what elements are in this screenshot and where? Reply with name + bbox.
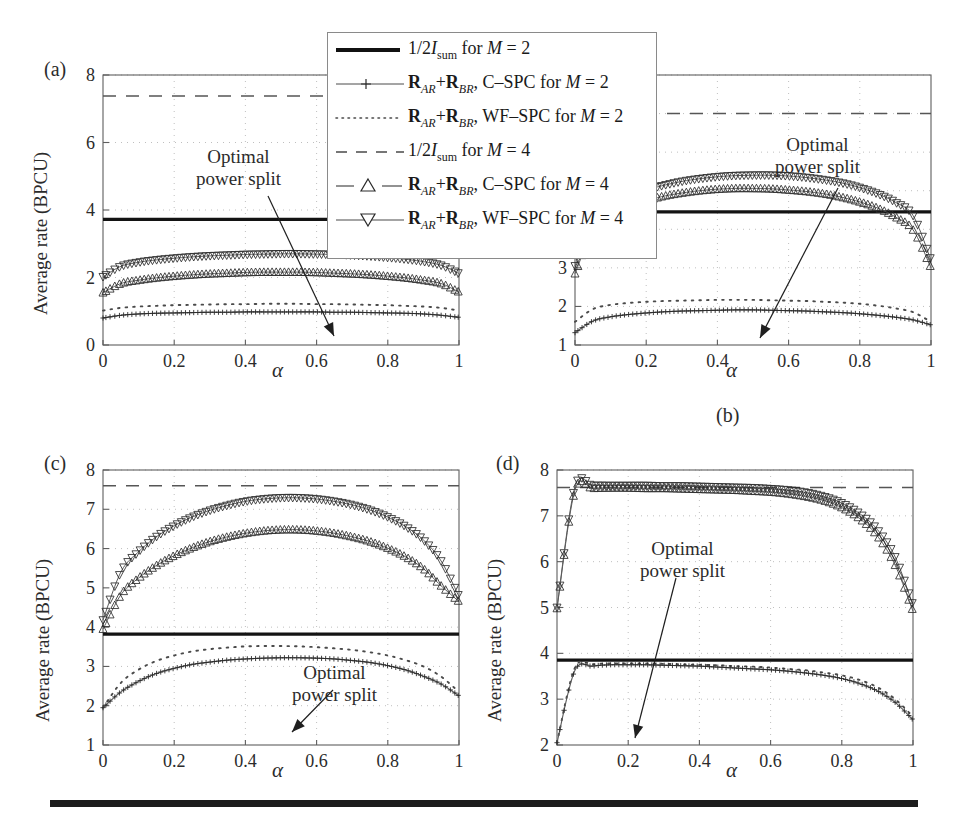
y-tick-label: 6	[86, 539, 95, 559]
series-dotted	[103, 646, 459, 708]
legend-label: 1/2Isum for M = 4	[408, 140, 530, 165]
legend-swatch-solid-thick-icon	[334, 39, 408, 61]
legend-item-rar-rbr-wfspc-m2: RAR+RBR, WF–SPC for M = 2	[328, 101, 656, 135]
legend-item-half-isum-m4: 1/2Isum for M = 4	[328, 135, 656, 169]
panel-label-d: (d)	[496, 452, 519, 475]
x-tick-label: 0.2	[163, 351, 186, 371]
markers-plus	[554, 661, 914, 745]
panel-label-c: (c)	[44, 452, 66, 475]
y-tick-label: 7	[540, 506, 549, 526]
annotation-optimal-power-split-d: Optimal power split	[640, 538, 725, 583]
x-tick-label: 0.6	[759, 751, 782, 771]
y-tick-label: 2	[558, 296, 567, 316]
y-tick-label: 2	[86, 696, 95, 716]
markers-triangle-up-icon	[553, 477, 916, 612]
markers-plus	[572, 307, 932, 335]
x-tick-label: 1	[455, 751, 464, 771]
series-dotted	[575, 300, 931, 322]
y-tick-label: 2	[86, 268, 95, 288]
legend-swatch-dotted-icon	[334, 107, 408, 129]
x-tick-label: 0.4	[234, 351, 257, 371]
legend: 1/2Isum for M = 2RAR+RBR, C–SPC for M = …	[327, 32, 657, 259]
x-tick-label: 0.6	[305, 751, 328, 771]
x-axis-label-d: α	[726, 758, 737, 783]
x-tick-label: 0.6	[305, 351, 328, 371]
x-axis-label-a: α	[272, 358, 283, 383]
legend-label: RAR+RBR, WF–SPC for M = 4	[408, 208, 623, 233]
x-tick-label: 1	[927, 351, 936, 371]
y-tick-label: 3	[86, 656, 95, 676]
plot-panel-c: 00.20.40.60.8112345678	[86, 460, 464, 771]
annotation-line-1: Optimal	[207, 146, 269, 167]
y-tick-label: 3	[558, 258, 567, 278]
x-tick-label: 0.4	[234, 751, 257, 771]
y-tick-label: 6	[540, 552, 549, 572]
annotation-line-1: Optimal	[786, 134, 848, 155]
series-dotted	[557, 661, 913, 742]
annotation-optimal-power-split-a: Optimal power split	[196, 146, 281, 191]
annotation-arrow-panel-a	[268, 196, 334, 336]
x-tick-label: 0.4	[688, 751, 711, 771]
x-tick-label: 0	[571, 351, 580, 371]
y-tick-label: 3	[540, 689, 549, 709]
y-tick-label: 5	[540, 598, 549, 618]
x-tick-label: 0	[99, 351, 108, 371]
legend-item-rar-rbr-wfspc-m4: RAR+RBR, WF–SPC for M = 4	[328, 203, 656, 237]
series-dash-triangle-up	[557, 481, 913, 611]
annotation-line-2: power split	[196, 168, 281, 189]
y-axis-label-a: Average rate (BPCU)	[30, 152, 52, 315]
y-tick-label: 0	[86, 335, 95, 355]
y-axis-label-d: Average rate (BPCU)	[484, 559, 506, 722]
y-tick-label: 8	[540, 460, 549, 480]
markers-triangle-down-icon	[553, 475, 916, 612]
x-tick-label: 0.8	[377, 751, 400, 771]
legend-swatch-dash-triangle-up-icon	[334, 175, 408, 197]
y-tick-label: 1	[86, 735, 95, 755]
annotation-arrow-panel-d	[633, 578, 676, 738]
y-tick-label: 5	[86, 578, 95, 598]
y-tick-label: 7	[86, 499, 95, 519]
x-tick-label: 0.2	[635, 351, 658, 371]
legend-swatch-line-triangle-down-icon	[334, 209, 408, 231]
y-tick-label: 4	[86, 200, 95, 220]
y-tick-label: 4	[86, 617, 95, 637]
x-tick-label: 1	[909, 751, 918, 771]
annotation-line-2: power split	[292, 684, 377, 705]
annotation-line-2: power split	[775, 156, 860, 177]
x-axis-label-c: α	[272, 758, 283, 783]
x-axis-label-b: α	[726, 358, 737, 383]
legend-label: RAR+RBR, C–SPC for M = 2	[408, 72, 609, 97]
panel-label-a: (a)	[44, 58, 66, 81]
panel-label-b: (b)	[716, 404, 739, 427]
bottom-rule	[50, 800, 918, 807]
annotation-optimal-power-split-c: Optimal power split	[292, 662, 377, 707]
series-plus-line	[103, 658, 459, 708]
x-tick-label: 0	[553, 751, 562, 771]
axes-frame	[557, 470, 913, 745]
series-dash-triangle-up	[103, 530, 459, 630]
y-tick-label: 2	[540, 735, 549, 755]
legend-swatch-plus-line-icon	[334, 73, 408, 95]
x-tick-label: 0.2	[163, 751, 186, 771]
y-tick-label: 1	[558, 335, 567, 355]
legend-swatch-dashed-icon	[334, 141, 408, 163]
y-axis-label-c: Average rate (BPCU)	[32, 559, 54, 722]
x-tick-label: 0.6	[777, 351, 800, 371]
legend-label: 1/2Isum for M = 2	[408, 38, 530, 63]
x-tick-label: 1	[455, 351, 464, 371]
annotation-optimal-power-split-b: Optimal power split	[775, 134, 860, 179]
annotation-line-1: Optimal	[651, 538, 713, 559]
plot-panel-d: 00.20.40.60.812345678	[540, 460, 918, 771]
y-tick-label: 6	[86, 133, 95, 153]
x-tick-label: 0	[99, 751, 108, 771]
annotation-line-2: power split	[640, 560, 725, 581]
axes-frame	[103, 470, 459, 745]
legend-item-rar-rbr-cspc-m4: RAR+RBR, C–SPC for M = 4	[328, 169, 656, 203]
x-tick-label: 0.8	[831, 751, 854, 771]
series-line-triangle-down	[557, 478, 913, 607]
legend-item-rar-rbr-cspc-m2: RAR+RBR, C–SPC for M = 2	[328, 67, 656, 101]
y-tick-label: 4	[540, 643, 549, 663]
x-tick-label: 0.8	[377, 351, 400, 371]
markers-plus	[100, 309, 460, 320]
annotation-line-1: Optimal	[303, 662, 365, 683]
